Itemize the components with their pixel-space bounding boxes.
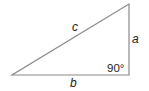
right-triangle-diagram: c a b 90°	[0, 0, 149, 91]
right-angle-label: 90°	[107, 62, 124, 74]
side-b-label: b	[70, 76, 77, 90]
side-c-label: c	[72, 20, 78, 34]
side-a-label: a	[132, 32, 139, 46]
